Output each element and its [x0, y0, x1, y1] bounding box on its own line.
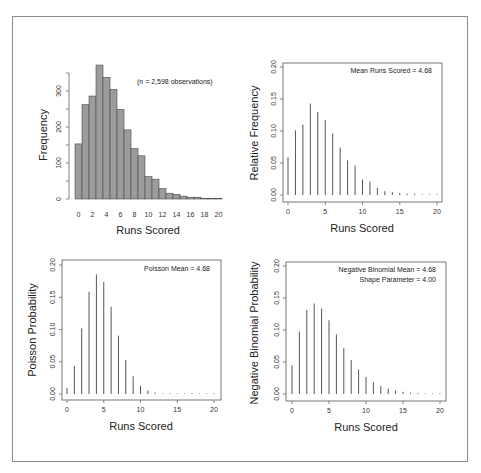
hist-x-tick-label: 10	[145, 211, 153, 218]
hist-y-tick-label: 0	[55, 197, 62, 201]
histogram-bar	[131, 149, 138, 199]
pois-x-axis-label: Runs Scored	[109, 420, 173, 432]
histogram-bar	[117, 109, 124, 199]
x-tick-label: 5	[327, 407, 331, 414]
histogram-bar	[124, 130, 131, 199]
y-tick-label: 0.20	[49, 258, 56, 272]
hist-x-tick-label: 2	[91, 211, 95, 218]
x-tick-label: 20	[433, 208, 441, 215]
figure-canvas: 010020030002468101214161820 Frequency Ru…	[0, 0, 481, 473]
x-tick-label: 15	[399, 407, 407, 414]
x-tick-label: 15	[173, 406, 181, 413]
y-tick-label: 0.00	[270, 188, 277, 202]
nb-annotation-shape: Shape Parameter = 4.00	[360, 276, 437, 284]
hist-x-tick-label: 4	[105, 211, 109, 218]
hist-y-tick-label: 300	[55, 85, 62, 97]
hist-x-tick-label: 8	[133, 211, 137, 218]
rel-y-axis-label: Relative Frequency	[248, 85, 260, 180]
y-tick-label: 0.00	[273, 387, 280, 401]
nb-x-axis-label: Runs Scored	[334, 421, 398, 433]
hist-x-tick-label: 20	[215, 211, 223, 218]
rel-annotation: Mean Runs Scored = 4.68	[350, 67, 432, 74]
histogram-bar	[180, 196, 187, 199]
y-tick-label: 0.15	[49, 290, 56, 304]
y-tick-label: 0.20	[273, 259, 280, 273]
x-tick-label: 20	[210, 406, 218, 413]
pois-annotation: Poisson Mean = 4.68	[144, 265, 210, 272]
x-tick-label: 10	[359, 208, 367, 215]
pois-y-axis-label: Poisson Probability	[26, 283, 38, 377]
histogram-bar	[159, 189, 166, 199]
histogram-bar	[75, 144, 82, 199]
x-tick-label: 0	[290, 407, 294, 414]
rel-x-axis-label: Runs Scored	[330, 222, 394, 234]
y-tick-label: 0.05	[273, 355, 280, 369]
x-tick-label: 10	[137, 406, 145, 413]
histogram-bar	[215, 198, 222, 199]
histogram-bar	[138, 156, 145, 199]
hist-x-axis-label: Runs Scored	[116, 224, 180, 236]
x-tick-label: 15	[396, 208, 404, 215]
nb-annotation-mean: Negative Binomial Mean = 4.68	[339, 266, 437, 274]
y-tick-label: 0.10	[273, 323, 280, 337]
histogram-bar	[89, 96, 96, 199]
y-tick-label: 0.10	[270, 124, 277, 138]
x-tick-label: 10	[362, 407, 370, 414]
histogram-bar	[145, 177, 152, 199]
hist-x-tick-label: 0	[77, 211, 81, 218]
histogram-bar	[82, 105, 89, 199]
histogram-bar	[110, 90, 117, 199]
x-tick-label: 0	[286, 208, 290, 215]
y-tick-label: 0.00	[49, 387, 56, 401]
x-tick-label: 0	[65, 406, 69, 413]
hist-annotation: (n = 2,598 observations)	[137, 78, 213, 86]
histogram-bar	[187, 197, 194, 199]
y-tick-label: 0.05	[270, 156, 277, 170]
hist-y-axis-label: Frequency	[37, 109, 49, 161]
y-tick-label: 0.10	[49, 323, 56, 337]
x-tick-label: 5	[102, 406, 106, 413]
histogram-bar	[96, 65, 103, 199]
histogram-bar	[103, 77, 110, 199]
histogram-bar	[173, 194, 180, 199]
plot-box	[62, 260, 221, 400]
hist-x-tick-label: 16	[187, 211, 195, 218]
histogram-panel: 010020030002468101214161820	[55, 65, 222, 218]
hist-x-tick-label: 14	[173, 211, 181, 218]
y-tick-label: 0.05	[49, 355, 56, 369]
hist-x-tick-label: 12	[159, 211, 167, 218]
hist-y-tick-label: 100	[55, 157, 62, 169]
x-tick-label: 5	[323, 208, 327, 215]
histogram-bar	[194, 197, 201, 199]
hist-y-tick-label: 200	[55, 121, 62, 133]
nb-y-axis-label: Negative Binomial Probability	[248, 261, 260, 405]
x-tick-label: 20	[436, 407, 444, 414]
histogram-bar	[166, 193, 173, 199]
histogram-bar	[152, 179, 159, 199]
y-tick-label: 0.15	[270, 92, 277, 106]
relative-frequency-panel: 051015200.000.050.100.150.20	[270, 60, 442, 215]
hist-x-tick-label: 18	[201, 211, 209, 218]
poisson-panel: 051015200.000.050.100.150.20	[49, 258, 221, 413]
y-tick-label: 0.20	[270, 60, 277, 74]
hist-x-tick-label: 6	[119, 211, 123, 218]
y-tick-label: 0.15	[273, 291, 280, 305]
